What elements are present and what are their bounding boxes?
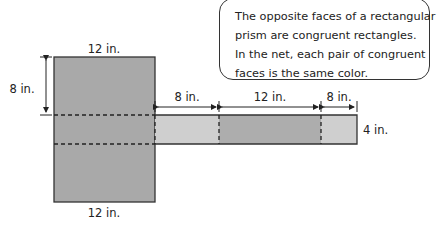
label-strip-seg3: 8 in. bbox=[326, 90, 351, 104]
face-top bbox=[54, 57, 155, 115]
label-strip-height: 4 in. bbox=[363, 123, 388, 137]
label-top-width: 12 in. bbox=[88, 42, 120, 56]
prism-net-diagram: 12 in. 12 in. 8 in. 8 in. 12 in. 8 in. 4… bbox=[0, 0, 444, 228]
label-strip-seg2: 12 in. bbox=[254, 90, 286, 104]
face-side-left bbox=[155, 115, 219, 144]
face-bottom bbox=[54, 144, 155, 202]
face-side-right bbox=[321, 115, 357, 144]
label-strip-seg1: 8 in. bbox=[174, 90, 199, 104]
label-left-height: 8 in. bbox=[9, 82, 34, 96]
label-bottom-width: 12 in. bbox=[88, 206, 120, 220]
face-back bbox=[219, 115, 321, 144]
face-front bbox=[54, 115, 155, 144]
